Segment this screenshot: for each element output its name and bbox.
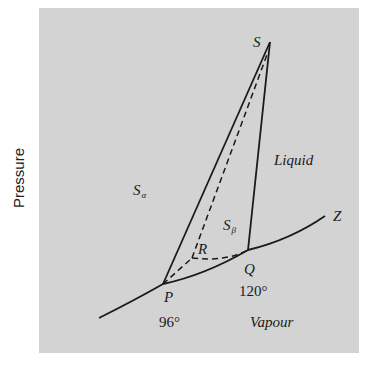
line-qs	[248, 42, 270, 250]
vapour-curve-upper	[248, 216, 325, 250]
region-label-s-beta: Sβ	[223, 218, 236, 233]
phase-diagram-lines	[0, 0, 376, 370]
y-axis-label: Pressure	[10, 148, 27, 208]
region-label-vapour: Vapour	[250, 315, 293, 330]
temperature-label-q: 120°	[239, 284, 268, 299]
point-label-q: Q	[244, 262, 255, 277]
temperature-label-p: 96°	[159, 315, 180, 330]
point-label-z: Z	[333, 209, 341, 224]
vapour-curve-lower	[99, 284, 163, 318]
region-label-s-alpha: Sα	[133, 183, 146, 198]
point-label-s: S	[253, 35, 261, 50]
region-label-liquid: Liquid	[274, 153, 313, 168]
point-label-p: P	[164, 290, 173, 305]
point-label-r: R	[198, 242, 207, 257]
